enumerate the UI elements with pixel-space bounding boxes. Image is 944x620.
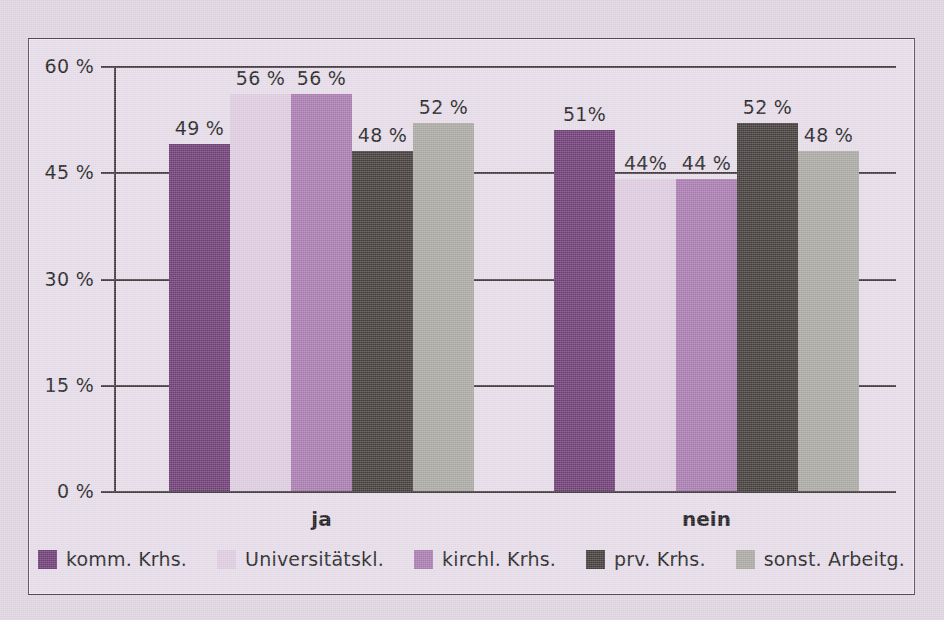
y-tick-mark-60: [101, 66, 114, 68]
legend-label: Universitätskl.: [245, 548, 384, 570]
y-tick-mark-15: [101, 385, 114, 387]
category-label-ja: ja: [311, 507, 331, 531]
y-tick-label-45: 45 %: [45, 161, 94, 183]
bar-value-label: 52 %: [743, 96, 792, 118]
bar-group-nein: 51%44%44 %52 %48 %: [554, 66, 859, 491]
y-tick-mark-45: [101, 172, 114, 174]
legend-swatch: [38, 550, 57, 569]
y-tick-label-15: 15 %: [45, 374, 94, 396]
bar-slot: 56 %: [291, 66, 352, 491]
bar-komm-krhs--nein: 51%: [554, 130, 615, 491]
y-tick-mark-30: [101, 279, 114, 281]
bar-universit-tskl--ja: 56 %: [230, 94, 291, 491]
bar-universit-tskl--nein: 44%: [615, 179, 676, 491]
legend-swatch: [736, 550, 755, 569]
legend-label: prv. Krhs.: [614, 548, 706, 570]
legend-label: kirchl. Krhs.: [442, 548, 556, 570]
y-tick-label-60: 60 %: [45, 55, 94, 77]
y-tick-label-30: 30 %: [45, 268, 94, 290]
bar-value-label: 56 %: [297, 67, 346, 89]
chart-legend: komm. Krhs.Universitätskl.kirchl. Krhs.p…: [29, 548, 914, 570]
category-label-nein: nein: [682, 507, 731, 531]
y-axis-line: [114, 66, 116, 491]
bar-komm-krhs--ja: 49 %: [169, 144, 230, 491]
bar-value-label: 56 %: [236, 67, 285, 89]
bar-value-label: 48 %: [358, 124, 407, 146]
bar-slot: 48 %: [352, 66, 413, 491]
chart-figure-frame: 0 %15 %30 %45 %60 %49 %56 %56 %48 %52 %j…: [28, 38, 915, 595]
bar-value-label: 48 %: [804, 124, 853, 146]
bar-value-label: 49 %: [175, 117, 224, 139]
bar-value-label: 44 %: [682, 152, 731, 174]
legend-swatch: [217, 550, 236, 569]
bar-prv-krhs--ja: 48 %: [352, 151, 413, 491]
bar-slot: 52 %: [737, 66, 798, 491]
y-tick-label-0: 0 %: [57, 480, 94, 502]
legend-swatch: [586, 550, 605, 569]
legend-item-universit-tskl-: Universitätskl.: [217, 548, 384, 570]
legend-label: komm. Krhs.: [66, 548, 187, 570]
legend-item-prv-krhs-: prv. Krhs.: [586, 548, 706, 570]
plot-area: 0 %15 %30 %45 %60 %49 %56 %56 %48 %52 %j…: [114, 66, 896, 491]
bar-slot: 56 %: [230, 66, 291, 491]
bar-sonst-arbeitg--nein: 48 %: [798, 151, 859, 491]
bar-slot: 49 %: [169, 66, 230, 491]
bar-slot: 51%: [554, 66, 615, 491]
legend-item-komm-krhs-: komm. Krhs.: [38, 548, 187, 570]
y-tick-mark-0: [101, 491, 114, 493]
bar-value-label: 51%: [563, 103, 606, 125]
bar-slot: 44 %: [676, 66, 737, 491]
bar-sonst-arbeitg--ja: 52 %: [413, 123, 474, 491]
bar-value-label: 44%: [624, 152, 667, 174]
bar-slot: 48 %: [798, 66, 859, 491]
bar-kirchl-krhs--ja: 56 %: [291, 94, 352, 491]
legend-swatch: [414, 550, 433, 569]
gridline-0: [114, 491, 896, 493]
bar-kirchl-krhs--nein: 44 %: [676, 179, 737, 491]
bar-group-ja: 49 %56 %56 %48 %52 %: [169, 66, 474, 491]
legend-item-kirchl-krhs-: kirchl. Krhs.: [414, 548, 556, 570]
bar-value-label: 52 %: [419, 96, 468, 118]
bar-slot: 52 %: [413, 66, 474, 491]
legend-label: sonst. Arbeitg.: [764, 548, 905, 570]
bar-slot: 44%: [615, 66, 676, 491]
bar-prv-krhs--nein: 52 %: [737, 123, 798, 491]
legend-item-sonst-arbeitg-: sonst. Arbeitg.: [736, 548, 905, 570]
